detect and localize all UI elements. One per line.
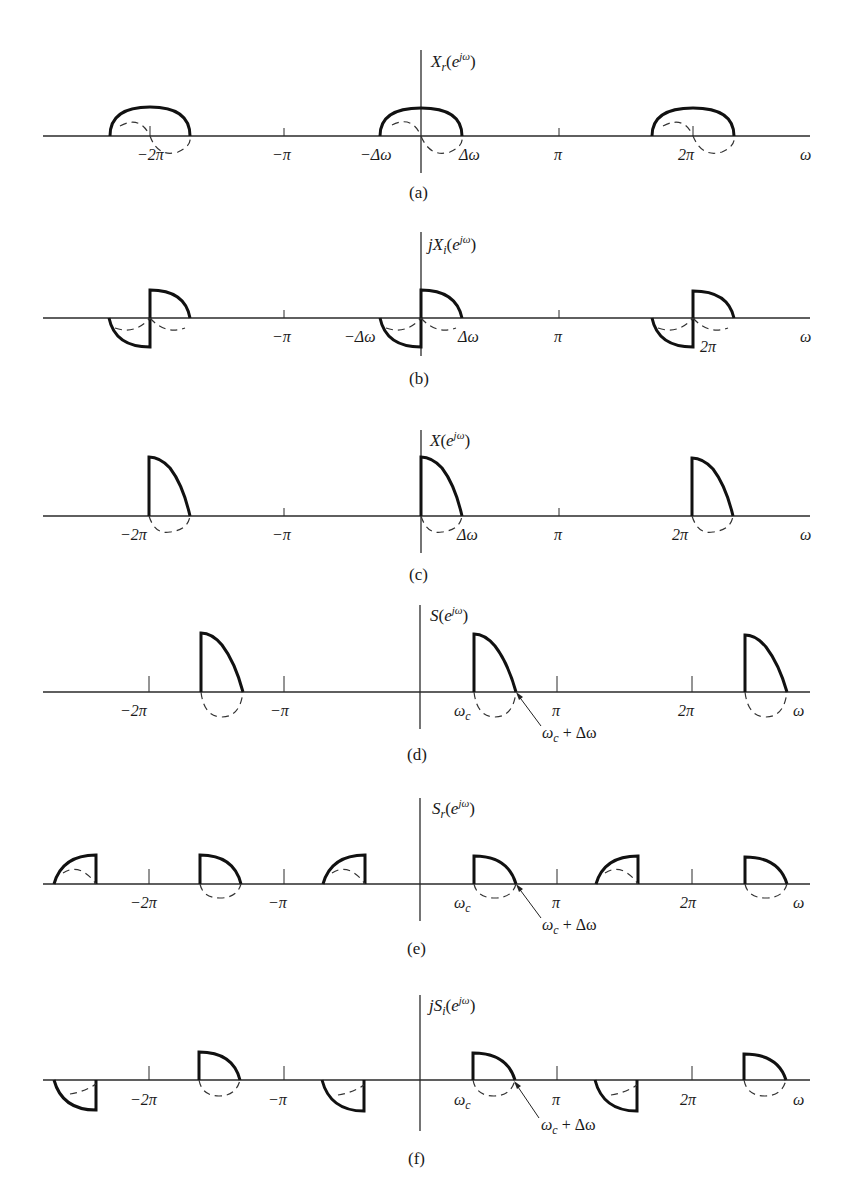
annotation-label: ωc + Δω [541, 1116, 595, 1137]
tick-label-neg-2pi: −2π [130, 894, 158, 911]
y-axis-label: S(ejω) [430, 604, 468, 625]
lobe [745, 857, 787, 898]
annotation-arrow [516, 884, 541, 918]
tick-label-omega-c: ωc [454, 702, 471, 723]
spectrum-figure: −2π −π −Δω Δω π 2π ω Xr(ejω) (a) −π −Δω … [0, 0, 854, 1194]
tick-label-neg-dw: −Δω [344, 328, 375, 345]
x-axis-label: ω [800, 146, 811, 163]
tick-label-pi: π [554, 526, 563, 543]
lobe [322, 1080, 364, 1111]
panel-b: −π −Δω Δω π 2π ω jXi(ejω) (b) [43, 232, 811, 388]
panel-caption: (c) [409, 565, 428, 584]
tick-label-dw: Δω [456, 526, 478, 543]
lobe [421, 457, 462, 532]
tick-label-2pi: 2π [678, 146, 695, 163]
panel-caption: (f) [408, 1149, 425, 1168]
panel-e: −2π −π ωc π 2π ω ωc + Δω Sr(ejω) (e) [43, 797, 810, 958]
annotation-label: ωc + Δω [542, 916, 596, 937]
annotation-label: ωc + Δω [542, 724, 596, 745]
lobe [745, 635, 787, 717]
lobe [54, 855, 96, 884]
tick-label-2pi: 2π [680, 1091, 697, 1108]
tick-label-pi: π [554, 146, 563, 163]
lobe [54, 1080, 96, 1110]
lobe [596, 856, 638, 884]
tick-label-neg-pi: −π [272, 328, 292, 345]
x-axis-label: ω [800, 328, 811, 345]
lobe [199, 1052, 240, 1096]
panel-caption: (a) [409, 183, 428, 202]
tick-label-pi: π [554, 328, 563, 345]
panel-f: −2π −π ωc π 2π ω ωc + Δω jSi(ejω) (f) [43, 994, 810, 1168]
lobe [744, 1054, 786, 1096]
tick-label-2pi: 2π [700, 338, 717, 355]
lobe [323, 855, 365, 884]
lobe [474, 634, 516, 717]
x-axis-label: ω [793, 894, 804, 911]
tick-label-neg-2pi: −2π [137, 146, 165, 163]
tick-label-neg-pi: −π [272, 526, 292, 543]
tick-label-neg-2pi: −2π [120, 526, 148, 543]
tick-label-neg-pi: −π [268, 894, 288, 911]
tick-label-neg-pi: −π [268, 1091, 288, 1108]
y-axis-label: jSi(ejω) [427, 994, 475, 1018]
tick-label-pi: π [552, 702, 561, 719]
tick-label-neg-2pi: −2π [130, 1091, 158, 1108]
tick-label-omega-c: ωc [454, 894, 471, 915]
panel-caption: (d) [407, 745, 427, 764]
panel-caption: (e) [407, 939, 426, 958]
y-axis-label: Xr(ejω) [430, 50, 476, 74]
tick-label-neg-2pi: −2π [120, 702, 148, 719]
panel-caption: (b) [409, 369, 429, 388]
panel-a: −2π −π −Δω Δω π 2π ω Xr(ejω) (a) [43, 50, 811, 202]
tick-label-neg-dw: −Δω [360, 146, 391, 163]
lobe [200, 855, 241, 898]
tick-label-pi: π [552, 1091, 561, 1108]
lobe [652, 291, 734, 347]
y-axis-label: Sr(ejω) [432, 797, 475, 821]
y-axis-label: X(ejω) [429, 429, 470, 450]
x-axis-label: ω [793, 702, 804, 719]
x-axis-label: ω [800, 526, 811, 543]
y-axis-label: jXi(ejω) [426, 233, 476, 257]
tick-label-2pi: 2π [678, 702, 695, 719]
tick-label-neg-pi: −π [270, 702, 290, 719]
tick-label-pi: π [552, 894, 561, 911]
annotation-arrow [516, 692, 541, 726]
lobe [149, 457, 190, 532]
tick-label-omega-c: ωc [454, 1091, 471, 1112]
tick-label-dw: Δω [457, 328, 479, 345]
lobe [595, 1080, 637, 1111]
lobe [692, 458, 733, 532]
tick-label-neg-pi: −π [272, 146, 292, 163]
lobe [474, 856, 516, 898]
tick-label-dw: Δω [458, 146, 480, 163]
tick-label-2pi: 2π [672, 526, 689, 543]
panel-c: −2π −π Δω π 2π ω X(ejω) (c) [43, 429, 811, 584]
lobe [201, 633, 243, 717]
annotation-arrow [514, 1081, 539, 1118]
x-axis-label: ω [793, 1091, 804, 1108]
lobe [473, 1053, 515, 1096]
tick-label-2pi: 2π [680, 894, 697, 911]
panel-d: −2π −π ωc π 2π ω ωc + Δω S(ejω) (d) [43, 604, 810, 764]
